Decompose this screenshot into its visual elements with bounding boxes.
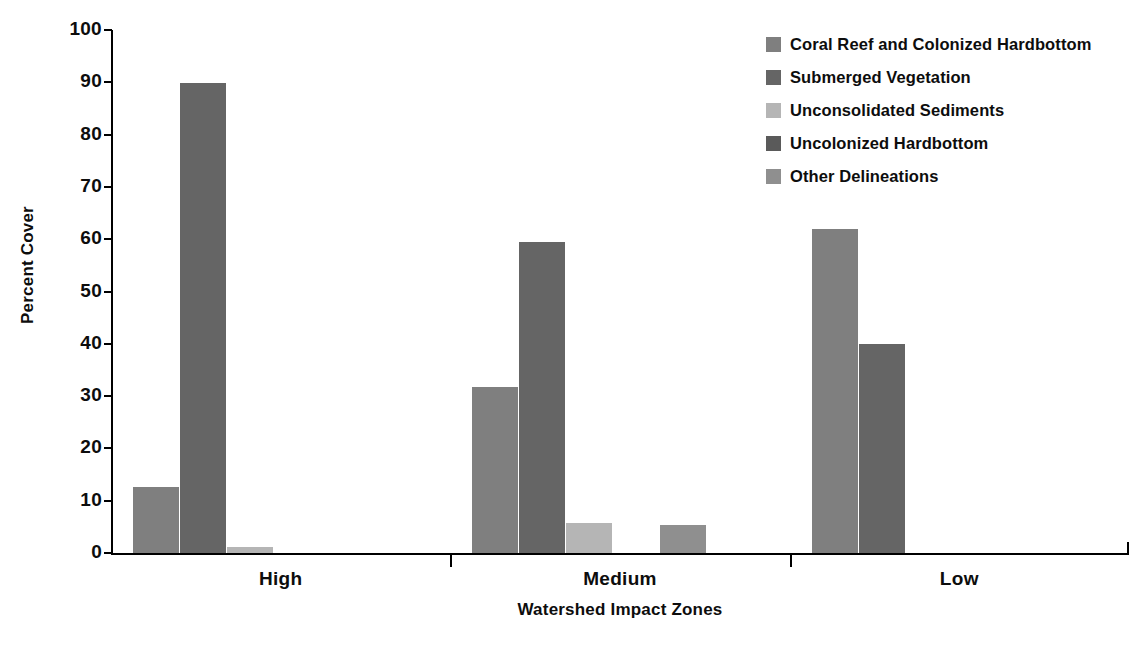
x-axis-category-label: Medium bbox=[450, 568, 789, 590]
y-axis-tick-label: 90 bbox=[80, 70, 102, 92]
x-axis-category-divider bbox=[790, 555, 792, 567]
bar bbox=[859, 344, 905, 553]
y-axis-tick-label: 70 bbox=[80, 175, 102, 197]
legend-item[interactable]: Unconsolidated Sediments bbox=[766, 94, 1145, 127]
legend-item-label: Submerged Vegetation bbox=[790, 68, 971, 87]
y-axis-tick-label: 20 bbox=[80, 436, 102, 458]
legend-item-label: Unconsolidated Sediments bbox=[790, 101, 1004, 120]
chart-legend: Coral Reef and Colonized HardbottomSubme… bbox=[766, 28, 1145, 193]
legend-item[interactable]: Uncolonized Hardbottom bbox=[766, 127, 1145, 160]
y-axis-tick-label: 30 bbox=[80, 384, 102, 406]
bar-chart: Percent Cover 0102030405060708090100 Hig… bbox=[0, 0, 1145, 651]
legend-swatch-icon bbox=[766, 103, 781, 118]
x-axis-category-divider bbox=[450, 555, 452, 567]
y-axis-tick-label: 0 bbox=[91, 541, 102, 563]
x-axis-category-label: Low bbox=[790, 568, 1129, 590]
legend-item[interactable]: Coral Reef and Colonized Hardbottom bbox=[766, 28, 1145, 61]
legend-swatch-icon bbox=[766, 169, 781, 184]
legend-item[interactable]: Other Delineations bbox=[766, 160, 1145, 193]
y-axis-tick-label: 60 bbox=[80, 227, 102, 249]
bar bbox=[566, 523, 612, 553]
legend-item-label: Uncolonized Hardbottom bbox=[790, 134, 988, 153]
x-axis-category-label: High bbox=[111, 568, 450, 590]
y-axis-tick-label: 80 bbox=[80, 123, 102, 145]
bar bbox=[519, 242, 565, 553]
legend-swatch-icon bbox=[766, 37, 781, 52]
bar bbox=[133, 487, 179, 553]
x-axis-end-cap bbox=[1127, 542, 1129, 555]
y-axis-tick-label: 100 bbox=[69, 18, 102, 40]
legend-swatch-icon bbox=[766, 136, 781, 151]
x-axis-title: Watershed Impact Zones bbox=[111, 600, 1129, 620]
bar bbox=[660, 525, 706, 553]
legend-item-label: Other Delineations bbox=[790, 167, 939, 186]
bar bbox=[180, 83, 226, 553]
y-axis-tick-label: 50 bbox=[80, 280, 102, 302]
bar bbox=[472, 387, 518, 553]
y-axis-tick-label: 10 bbox=[80, 489, 102, 511]
bar bbox=[812, 229, 858, 553]
legend-item-label: Coral Reef and Colonized Hardbottom bbox=[790, 35, 1091, 54]
legend-swatch-icon bbox=[766, 70, 781, 85]
y-axis-title: Percent Cover bbox=[18, 165, 38, 365]
y-axis-tick-label: 40 bbox=[80, 332, 102, 354]
x-axis-line bbox=[111, 553, 1129, 555]
legend-item[interactable]: Submerged Vegetation bbox=[766, 61, 1145, 94]
